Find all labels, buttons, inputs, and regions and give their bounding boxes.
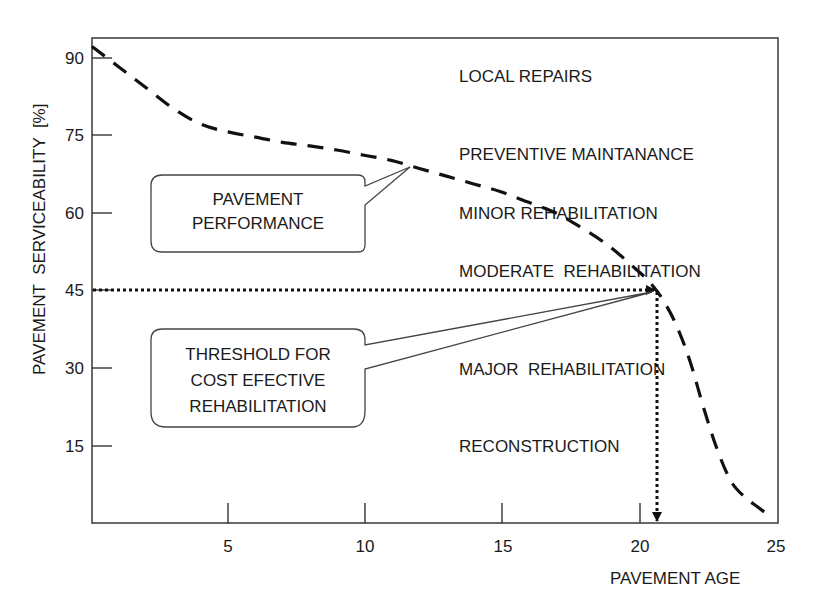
callout-text-line: PAVEMENT [213, 190, 304, 209]
x-tick-label: 10 [356, 537, 375, 556]
x-axis-ticks [228, 503, 640, 523]
pavement-performance-curve [92, 46, 772, 517]
zone-label-major-rehabilitation: MAJOR REHABILITATION [459, 360, 665, 379]
y-tick-label: 30 [65, 359, 84, 378]
y-tick-label: 15 [65, 437, 84, 456]
callout-text-line: PERFORMANCE [192, 214, 324, 233]
zone-label-moderate-rehabilitation: MODERATE REHABILITATION [459, 262, 701, 281]
callout-pavement-performance: PAVEMENT PERFORMANCE [151, 167, 410, 252]
x-tick-label: 20 [631, 537, 650, 556]
x-axis-tick-labels: 5 10 15 20 25 [223, 537, 785, 556]
y-axis-title: PAVEMENT SERVICEABILITY [%] [30, 104, 49, 375]
zone-label-reconstruction: RECONSTRUCTION [459, 437, 620, 456]
y-tick-label: 45 [65, 281, 84, 300]
zone-labels: LOCAL REPAIRS PREVENTIVE MAINTANANCE MIN… [459, 67, 701, 456]
zone-label-local-repairs: LOCAL REPAIRS [459, 67, 592, 86]
x-axis-title: PAVEMENT AGE [610, 569, 740, 588]
y-tick-label: 60 [65, 204, 84, 223]
x-tick-label: 15 [494, 537, 513, 556]
zone-label-minor-rehabilitation: MINOR REHABILITATION [459, 204, 658, 223]
x-tick-label: 5 [223, 537, 232, 556]
callout-text-line: COST EFECTIVE [191, 371, 326, 390]
y-tick-label: 90 [65, 49, 84, 68]
callout-text-line: THRESHOLD FOR [185, 345, 330, 364]
y-tick-label: 75 [65, 126, 84, 145]
x-tick-label: 25 [767, 537, 786, 556]
y-axis-tick-labels: 15 30 45 60 75 90 [65, 49, 84, 456]
pavement-serviceability-chart: 15 30 45 60 75 90 5 10 15 20 25 PAVEMENT… [0, 0, 813, 608]
y-axis-ticks [92, 58, 112, 446]
zone-label-preventive-maintenance: PREVENTIVE MAINTANANCE [459, 145, 694, 164]
callout-text-line: REHABILITATION [189, 397, 326, 416]
